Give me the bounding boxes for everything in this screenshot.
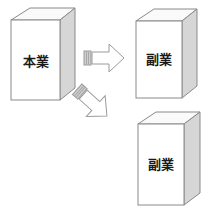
box-side-business-top-label: 副業 <box>146 52 174 67</box>
box-side-business-bottom-side-face <box>184 112 200 205</box>
box-side-business-bottom-label: 副業 <box>148 157 176 172</box>
box-main-business-side-face <box>60 8 75 100</box>
arrow-horizontal-tail <box>84 51 91 65</box>
arrow-horizontal <box>84 44 124 72</box>
diagram-canvas: 本業 副業 副業 <box>0 0 209 223</box>
box-side-business-top: 副業 <box>136 9 197 98</box>
box-side-business-bottom: 副業 <box>138 112 200 205</box>
box-main-business: 本業 <box>11 8 75 100</box>
business-diagram: 本業 副業 副業 <box>0 0 209 223</box>
box-side-business-top-side-face <box>182 9 197 98</box>
arrow-horizontal-body <box>92 44 124 72</box>
box-main-business-label: 本業 <box>23 54 51 69</box>
